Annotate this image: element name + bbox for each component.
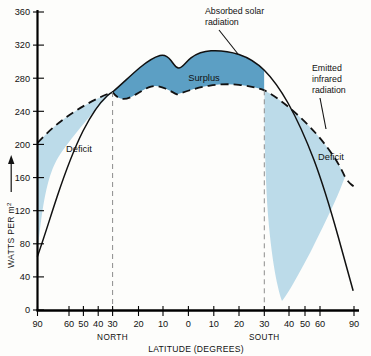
annotation-emitted-infrared: Emitted infrared radiation	[312, 63, 346, 129]
y-axis-title: WATTS PER m2	[5, 202, 16, 268]
x-tick-label: 20	[234, 319, 244, 329]
hemisphere-label-north: NORTH	[97, 333, 128, 342]
x-tick-label: 0	[186, 319, 191, 329]
x-tick-label: 40	[93, 319, 103, 329]
y-tick-label: 280	[15, 74, 30, 84]
annotation-emitted-line2: infrared	[312, 74, 342, 84]
region-label-deficit-north: Deficit	[66, 144, 92, 154]
x-tick-label: 30	[259, 319, 269, 329]
y-tick-labels: 360 320 280 240 200 160 120 80 40 0	[15, 7, 30, 315]
x-tick-label: 10	[158, 319, 168, 329]
annotation-absorbed-line2: radiation	[205, 17, 239, 27]
annotation-absorbed-line1: Absorbed solar	[205, 6, 264, 16]
hemisphere-label-south: SOUTH	[249, 333, 280, 342]
annotation-emitted-line3: radiation	[312, 85, 346, 95]
x-tick-label: 60	[64, 319, 74, 329]
x-tick-label: 50	[78, 319, 88, 329]
region-label-deficit-south: Deficit	[318, 152, 344, 162]
x-tick-label: 30	[107, 319, 117, 329]
chart-svg: 360 320 280 240 200 160 120 80 40 0	[0, 0, 371, 356]
y-tick-label: 160	[15, 173, 30, 183]
y-tick-label: 200	[15, 140, 30, 150]
x-tick-label: 10	[209, 319, 219, 329]
y-tick-label: 80	[20, 239, 30, 249]
x-tick-label: 50	[300, 319, 310, 329]
region-label-surplus: Surplus	[188, 73, 220, 83]
x-tick-label: 90	[32, 319, 42, 329]
y-tick-label: 320	[15, 40, 30, 50]
x-axis-title: LATITUDE (DEGREES)	[148, 344, 244, 354]
x-tick-label: 60	[315, 319, 325, 329]
x-tick-labels: 90 60 50 40 30 20 10 0 10 20 30 40 50 60…	[32, 319, 359, 329]
deficit-region-north	[38, 92, 113, 256]
y-tick-label: 40	[20, 272, 30, 282]
y-tick-label: 0	[25, 305, 30, 315]
annotation-emitted-line1: Emitted	[312, 63, 342, 73]
y-tick-label: 120	[15, 206, 30, 216]
y-axis-arrow-head	[8, 155, 14, 164]
annotation-emitted-leader	[320, 98, 326, 129]
x-tick-label: 90	[349, 319, 359, 329]
x-tick-label: 20	[133, 319, 143, 329]
annotation-absorbed-solar: Absorbed solar radiation	[205, 6, 264, 54]
x-tick-label: 40	[284, 319, 294, 329]
y-tick-label: 360	[15, 7, 30, 17]
radiation-balance-chart: 360 320 280 240 200 160 120 80 40 0	[0, 0, 371, 356]
y-tick-label: 240	[15, 107, 30, 117]
